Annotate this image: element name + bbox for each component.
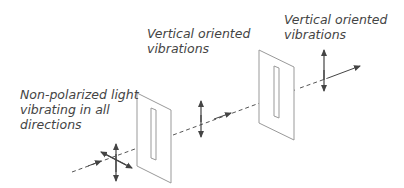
beam-direction-arrow-2 [214, 113, 231, 119]
polarizer-1 [137, 93, 171, 183]
polarizer-2 [259, 50, 294, 140]
label-line: Vertical oriented [284, 12, 387, 27]
polarization-diagram: Non-polarized light vibrating in all dir… [0, 0, 404, 188]
label-line: vibrating in all [20, 102, 139, 117]
label-line: Vertical oriented [147, 26, 250, 41]
beam-direction-arrow-1 [88, 161, 101, 166]
first-polarized-label: Vertical oriented vibrations [147, 26, 250, 56]
unpolarized-light-label: Non-polarized light vibrating in all dir… [20, 87, 139, 132]
label-line: directions [20, 117, 139, 132]
unpolarized-vibration-icon [101, 144, 132, 181]
second-polarized-label: Vertical oriented vibrations [284, 12, 387, 42]
label-line: vibrations [284, 27, 387, 42]
label-line: vibrations [147, 41, 250, 56]
label-line: Non-polarized light [20, 87, 139, 102]
